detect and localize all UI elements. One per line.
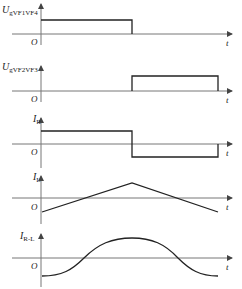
- origin-label: O: [31, 202, 38, 212]
- panel-label: UgVF1VF4: [2, 4, 38, 17]
- panel-il: IL O t: [12, 171, 232, 224]
- panel-label: UgVF2VF3: [2, 61, 38, 74]
- panel-ug-vf2vf3: UgVF2VF3 O t: [2, 61, 232, 105]
- panel-ir-l: IR-L O t: [12, 230, 232, 287]
- time-label: t: [226, 148, 229, 158]
- panel-label: IL: [32, 171, 41, 184]
- panel-label: IR-L: [19, 230, 35, 243]
- time-label: t: [226, 262, 229, 272]
- time-label: t: [226, 202, 229, 212]
- origin-label: O: [31, 37, 38, 47]
- gate-pulse: [41, 20, 132, 34]
- panel-ug-vf1vf4: UgVF1VF4 O t: [2, 4, 232, 48]
- time-label: t: [226, 95, 229, 105]
- origin-label: O: [31, 261, 38, 271]
- origin-label: O: [31, 94, 38, 104]
- panel-ir: IR O t: [12, 113, 232, 168]
- origin-label: O: [31, 147, 38, 157]
- gate-pulse: [132, 76, 218, 91]
- waveform-diagram: UgVF1VF4 O t UgVF2VF3 O t IR O t IL O t …: [0, 0, 242, 289]
- time-label: t: [226, 38, 229, 48]
- panel-label: IR: [32, 113, 41, 126]
- smoothed-wave: [42, 238, 218, 276]
